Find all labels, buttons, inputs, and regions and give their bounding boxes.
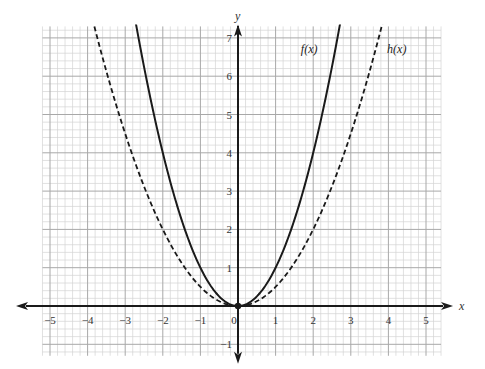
y-tick-label: −1 xyxy=(220,338,232,350)
curve-labels: f(x)h(x) xyxy=(301,42,407,56)
x-tick-label: 5 xyxy=(423,314,429,326)
origin-point xyxy=(235,303,241,309)
y-tick-label: 1 xyxy=(227,262,233,274)
y-tick-label: 2 xyxy=(227,223,233,235)
axes: xy xyxy=(16,9,465,363)
x-tick-label: 1 xyxy=(273,314,279,326)
x-axis-label: x xyxy=(458,299,465,313)
curve-label-f: f(x) xyxy=(301,42,318,56)
y-axis-label: y xyxy=(234,9,241,23)
y-tick-label: 6 xyxy=(227,70,233,82)
y-tick-label: 3 xyxy=(227,185,233,197)
x-tick-label: −3 xyxy=(119,314,131,326)
x-tick-label: 2 xyxy=(310,314,316,326)
x-tick-label: −2 xyxy=(157,314,169,326)
x-tick-label: −4 xyxy=(82,314,94,326)
y-tick-label: 4 xyxy=(227,147,233,159)
x-tick-label: 4 xyxy=(386,314,392,326)
y-tick-label: 5 xyxy=(227,109,233,121)
x-tick-label: −5 xyxy=(44,314,56,326)
graph-canvas: xy −5−4−3−2−1012345−11234567 f(x)h(x) xyxy=(0,0,485,369)
x-tick-label: 0 xyxy=(231,314,237,326)
x-tick-label: −1 xyxy=(195,314,207,326)
y-tick-label: 7 xyxy=(227,32,233,44)
curve-label-h: h(x) xyxy=(387,42,406,56)
x-tick-label: 3 xyxy=(348,314,354,326)
